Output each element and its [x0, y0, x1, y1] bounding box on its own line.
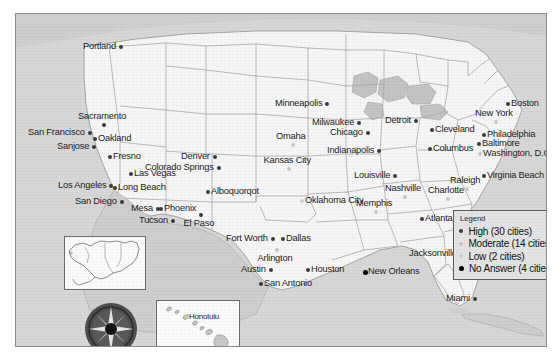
city-label-miami: Miami: [446, 294, 470, 303]
city-label-austin: Austin: [241, 265, 266, 274]
city-label-alboquorqot: Alboquorqot: [211, 187, 259, 196]
city-label-new-york: New York: [475, 109, 513, 118]
city-dot-baltimore: [477, 142, 481, 146]
city-label-el-paso: El Paso: [184, 219, 215, 228]
city-dot-dallas: [281, 237, 285, 241]
city-label-nashville: Nashville: [385, 184, 421, 193]
city-label-indianapolis: Indianapolis: [327, 146, 374, 155]
city-dot-arlington: [275, 248, 279, 252]
city-dot-milwaukee: [357, 121, 361, 125]
city-label-fort-worth: Fort Worth: [226, 234, 268, 243]
city-label-minneapolis: Minneapolis: [275, 99, 322, 108]
city-dot-denver: [213, 155, 217, 159]
city-label-san-francisco: San Francisco: [28, 128, 85, 137]
city-label-virginia-beach: Virginia Beach: [487, 171, 544, 180]
city-dot-washington-d-c: [478, 152, 482, 156]
city-label-louisville: Louisville: [354, 171, 390, 180]
city-label-mesa: Mesa: [131, 204, 153, 213]
city-dot-fort-worth: [271, 237, 275, 241]
city-label-jacksonville: Jacksonville: [409, 249, 457, 258]
city-label-san-diego: San Diego: [75, 197, 117, 206]
city-dot-portland: [119, 45, 123, 49]
city-label-honolulu: Honolulu: [189, 312, 219, 321]
map-screenshot: PortlandSan FranciscoOaklandSacramentoSa…: [0, 0, 560, 358]
city-dot-houston: [306, 268, 310, 272]
city-label-omaha: Omaha: [276, 132, 306, 141]
city-dot-new-orleans: [363, 270, 368, 275]
legend-swatch-moderate: [459, 242, 463, 246]
city-dot-kansas-city: [287, 167, 291, 171]
city-dot-new-york: [494, 120, 498, 124]
city-label-oakland: Oakland: [98, 134, 131, 143]
legend-swatch-no_answer: [459, 266, 464, 271]
city-label-detroit: Detroit: [385, 116, 411, 125]
city-dot-minneapolis: [325, 102, 329, 106]
city-label-los-angeles: Los Angeles: [58, 181, 106, 190]
city-dot-columbus: [428, 147, 432, 151]
compass-rose-icon: [84, 302, 138, 347]
city-dot-long-beach: [113, 186, 117, 190]
city-label-tucson: Tucson: [139, 216, 168, 225]
legend-label-low: Low (2 cities): [468, 251, 524, 262]
city-label-oklahoma-city: Oklahoma City: [305, 196, 363, 205]
city-dot-philadelphia: [482, 133, 486, 137]
city-dot-raleigh: [465, 187, 469, 191]
city-label-sanjose: Sanjose: [57, 142, 89, 151]
city-dot-el-paso: [199, 213, 203, 217]
city-label-memphis: Memphis: [356, 199, 392, 208]
legend-item-low[interactable]: Low (2 cities): [459, 250, 547, 263]
legend-item-no_answer[interactable]: No Answer (4 cities): [459, 263, 547, 276]
legend-item-high[interactable]: High (30 cities): [459, 225, 547, 238]
compass-rose-graphic: [84, 302, 138, 347]
legend-swatch-low: [459, 254, 463, 258]
legend-swatch-high: [459, 229, 463, 233]
city-label-denver: Denver: [181, 152, 210, 161]
legend-title: Legend: [460, 214, 547, 223]
alaska-inset: [64, 236, 146, 290]
city-dot-miami: [473, 297, 477, 301]
city-dot-indianapolis: [377, 149, 381, 153]
city-dot-san-diego: [120, 200, 124, 204]
legend-label-moderate: Moderate (14 cities): [468, 238, 547, 249]
city-label-kansas-city: Kansas City: [264, 156, 311, 165]
city-dot-austin: [269, 268, 273, 272]
city-dot-san-francisco: [88, 131, 92, 135]
legend-label-high: High (30 cities): [468, 226, 532, 237]
city-label-colorado-springs: Colorado Springs: [145, 163, 214, 172]
city-dot-san-antonio: [259, 282, 263, 286]
city-label-new-orleans: New Orleans: [368, 267, 420, 276]
city-label-chicago: Chicago: [330, 128, 363, 137]
legend-label-no_answer: No Answer (4 cities): [469, 263, 547, 274]
city-label-cleveland: Cleveland: [435, 125, 475, 134]
city-label-baltimore: Baltimore: [482, 139, 519, 148]
city-label-houston: Houston: [311, 265, 344, 274]
city-dot-memphis: [374, 210, 378, 214]
city-dot-las-vegas: [129, 172, 133, 176]
hawaii-inset: Honolulu: [156, 300, 240, 347]
city-label-washington-d-c: Washington, D.C.: [483, 149, 547, 158]
city-label-fresno: Fresno: [113, 152, 141, 161]
city-label-san-antonio: San Antonio: [264, 279, 312, 288]
city-label-portland: Portland: [83, 42, 116, 51]
city-dot-virginia-beach: [482, 174, 486, 178]
city-dot-charlotte: [446, 197, 450, 201]
alaska-outline: [65, 237, 145, 289]
city-dot-phoenix: [159, 207, 163, 211]
city-dot-boston: [506, 102, 510, 106]
city-dot-fresno: [108, 155, 112, 159]
city-label-phoenix: Phoenix: [164, 204, 196, 213]
city-dot-louisville: [393, 174, 397, 178]
city-dot-omaha: [291, 143, 295, 147]
city-dot-nashville: [403, 195, 407, 199]
city-dot-cleveland: [430, 128, 434, 132]
city-label-arlington: Arlington: [258, 254, 293, 263]
city-dot-chicago: [366, 131, 370, 135]
legend: Legend High (30 cities)Moderate (14 citi…: [453, 210, 547, 280]
city-label-boston: Boston: [511, 99, 539, 108]
city-label-milwaukee: Milwaukee: [312, 118, 354, 127]
city-dot-oakland: [93, 137, 97, 141]
city-label-long-beach: Long Beach: [118, 183, 166, 192]
us-map-frame: PortlandSan FranciscoOaklandSacramentoSa…: [15, 13, 547, 347]
city-dot-tucson: [171, 219, 175, 223]
legend-item-moderate[interactable]: Moderate (14 cities): [459, 238, 547, 251]
